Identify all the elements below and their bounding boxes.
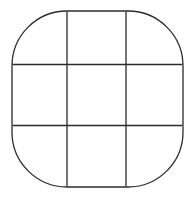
rounded-square-outline <box>12 11 183 187</box>
figure-canvas: rounded square divided into a three by t… <box>0 0 194 199</box>
rounded-square-grid-figure: rounded square divided into a three by t… <box>0 0 194 199</box>
